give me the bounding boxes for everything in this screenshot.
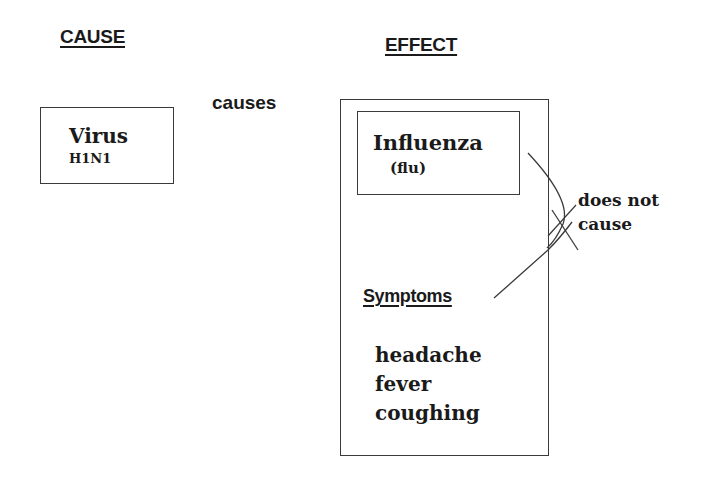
connector-curve-influenza: [528, 153, 565, 248]
connector-short-stroke: [548, 205, 576, 236]
connector-lines: [0, 0, 704, 482]
connector-line-symptoms: [494, 222, 572, 298]
